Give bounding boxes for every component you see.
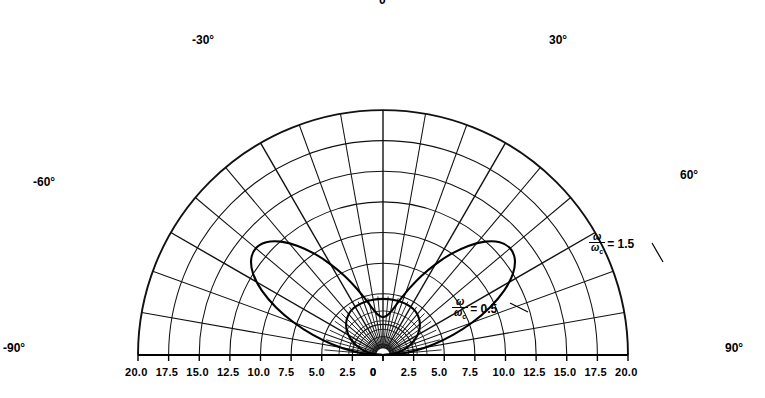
radial-tick-left-10: 10.0 xyxy=(248,366,271,378)
curve-label-outer-denominator: ωc xyxy=(589,242,605,255)
radial-tick-right-2-5: 2.5 xyxy=(401,366,417,378)
curve-label-outer: ω ωc = 1.5 xyxy=(589,232,634,255)
angle-label-neg90: -90° xyxy=(3,341,25,355)
curve-label-inner: ω ωc = 0.5 xyxy=(452,297,497,320)
curve-label-inner-numerator: ω xyxy=(454,297,466,307)
curve-label-outer-numerator: ω xyxy=(591,232,603,242)
annotation-leader-lines xyxy=(510,243,663,312)
radial-tick-right-7-5: 7.5 xyxy=(462,366,478,378)
radial-tick-right-5: 5.0 xyxy=(431,366,447,378)
angle-label-zero: 0 xyxy=(379,0,386,7)
angle-label-neg30: -30° xyxy=(192,33,214,47)
angle-label-pos30: 30° xyxy=(549,33,567,47)
polar-radiation-pattern-figure: -90° -60° -30° 0 30° 60° 90° 20.0 17.5 1… xyxy=(0,0,765,398)
leader-line-outer xyxy=(652,243,663,262)
curve-label-outer-value: = 1.5 xyxy=(607,237,634,251)
radial-tick-left-20: 20.0 xyxy=(125,366,148,378)
radial-tick-left-17-5: 17.5 xyxy=(156,366,179,378)
radial-tick-right-10: 10.0 xyxy=(493,366,516,378)
radial-tick-right-17-5: 17.5 xyxy=(584,366,607,378)
radial-tick-left-7-5: 7.5 xyxy=(278,366,294,378)
curve-label-inner-denominator: ωc xyxy=(452,307,468,320)
radial-tick-right-0: 0 xyxy=(370,366,376,378)
radial-tick-right-15: 15.0 xyxy=(554,366,577,378)
radial-tick-left-12-5: 12.5 xyxy=(217,366,240,378)
curve-label-inner-value: = 0.5 xyxy=(470,302,497,316)
curve-label-outer-fraction: ω ωc xyxy=(589,232,605,255)
radial-tick-right-12-5: 12.5 xyxy=(523,366,546,378)
radial-tick-left-2-5: 2.5 xyxy=(339,366,355,378)
angle-label-pos60: 60° xyxy=(680,168,698,182)
radial-tick-left-15: 15.0 xyxy=(186,366,209,378)
polar-grid xyxy=(138,110,628,355)
angle-label-neg60: -60° xyxy=(33,175,55,189)
radial-tick-left-5: 5.0 xyxy=(309,366,325,378)
radial-tick-right-20: 20.0 xyxy=(615,366,638,378)
polar-plot-canvas xyxy=(0,0,765,398)
curve-label-inner-fraction: ω ωc xyxy=(452,297,468,320)
angle-label-pos90: 90° xyxy=(725,341,743,355)
